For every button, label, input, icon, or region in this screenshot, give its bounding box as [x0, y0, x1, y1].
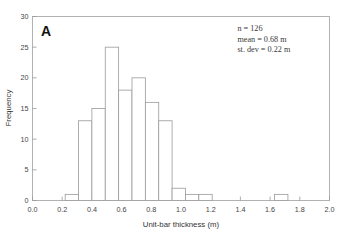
x-tick-label: 1.2 [206, 205, 216, 214]
x-tick-label: 0.8 [146, 205, 156, 214]
histogram-bar [172, 188, 185, 200]
y-axis-title: Frequency [4, 89, 13, 126]
y-tick-label: 0 [25, 196, 29, 205]
annotation-line: st. dev = 0.22 m [237, 45, 290, 54]
histogram-bar [185, 194, 198, 200]
x-tick-label: 0.2 [57, 205, 67, 214]
histogram-bar [119, 90, 132, 200]
x-tick-label: 1.4 [235, 205, 245, 214]
histogram-bar-outlier [275, 194, 288, 200]
histogram-bar [159, 121, 172, 201]
annotation-line: mean = 0.68 m [237, 35, 287, 44]
x-tick-label: 1.8 [295, 205, 305, 214]
x-tick-label: 0.4 [87, 205, 97, 214]
histogram-bar [92, 109, 105, 201]
histogram-bar [199, 194, 212, 200]
y-tick-label: 10 [21, 135, 29, 144]
histogram-bar [145, 102, 158, 200]
x-tick-label: 1.6 [265, 205, 275, 214]
y-tick-label: 15 [21, 104, 29, 113]
x-tick-label: 2.0 [325, 205, 335, 214]
x-axis-title: Unit-bar thickness (m) [143, 220, 220, 229]
histogram-bar [79, 121, 92, 201]
x-tick-label: 1.0 [176, 205, 186, 214]
histogram-bar [132, 78, 145, 201]
histogram-figure: 0.00.20.40.60.81.01.21.41.61.82.0 051015… [0, 0, 345, 239]
chart-canvas: 0.00.20.40.60.81.01.21.41.61.82.0 051015… [0, 0, 345, 239]
y-tick-label: 25 [21, 43, 29, 52]
histogram-bar [105, 47, 118, 200]
x-tick-label: 0.0 [28, 205, 38, 214]
histogram-bar [65, 194, 78, 200]
y-tick-label: 30 [21, 12, 29, 21]
annotation-line: n = 126 [237, 24, 262, 33]
y-tick-label: 5 [25, 165, 29, 174]
y-tick-label: 20 [21, 73, 29, 82]
panel-label: A [41, 23, 51, 39]
chart-background [0, 0, 345, 239]
x-tick-label: 0.6 [117, 205, 127, 214]
